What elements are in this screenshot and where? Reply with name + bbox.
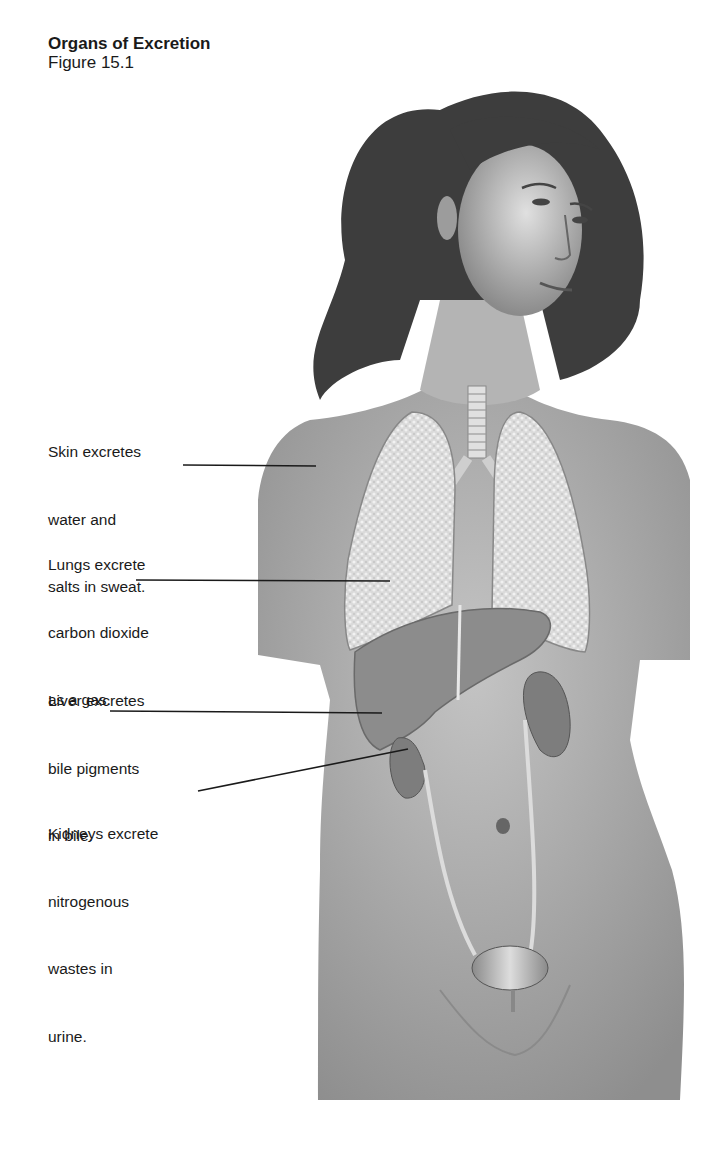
- torso: [258, 380, 690, 1100]
- leader-line-lungs: [136, 580, 390, 581]
- ear: [437, 196, 457, 240]
- trachea: [468, 386, 486, 458]
- leader-line-skin: [183, 465, 316, 466]
- falciform-ligament: [458, 605, 460, 700]
- navel: [496, 818, 510, 834]
- anatomical-illustration: [0, 0, 727, 1164]
- eye-left: [532, 199, 550, 206]
- eye-right: [572, 217, 588, 224]
- bladder: [472, 946, 548, 990]
